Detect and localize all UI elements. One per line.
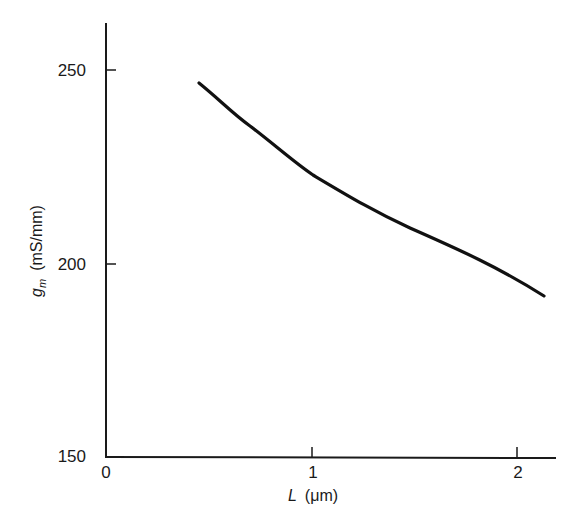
data-curve [199, 83, 544, 296]
y-tick-label-200: 200 [58, 255, 86, 274]
y-tick-label-150: 150 [58, 447, 86, 466]
x-axis: 0 1 2 L(μm) [101, 447, 556, 504]
y-axis: 250 200 150 gm(mS/mm) [28, 23, 116, 466]
x-tick-label-2: 2 [513, 463, 522, 482]
x-tick-label-0: 0 [101, 463, 110, 482]
y-tick-label-250: 250 [58, 61, 86, 80]
x-axis-title: L(μm) [288, 487, 338, 504]
x-tick-label-1: 1 [308, 463, 317, 482]
chart: 250 200 150 gm(mS/mm) 0 1 2 L(μm) [0, 0, 583, 529]
x-axis-unit: (μm) [305, 487, 338, 504]
y-axis-var: g [28, 288, 45, 297]
y-axis-title: gm(mS/mm) [28, 205, 48, 297]
y-axis-sub: m [36, 279, 48, 288]
y-axis-unit: (mS/mm) [28, 205, 45, 271]
x-axis-var: L [288, 487, 297, 504]
